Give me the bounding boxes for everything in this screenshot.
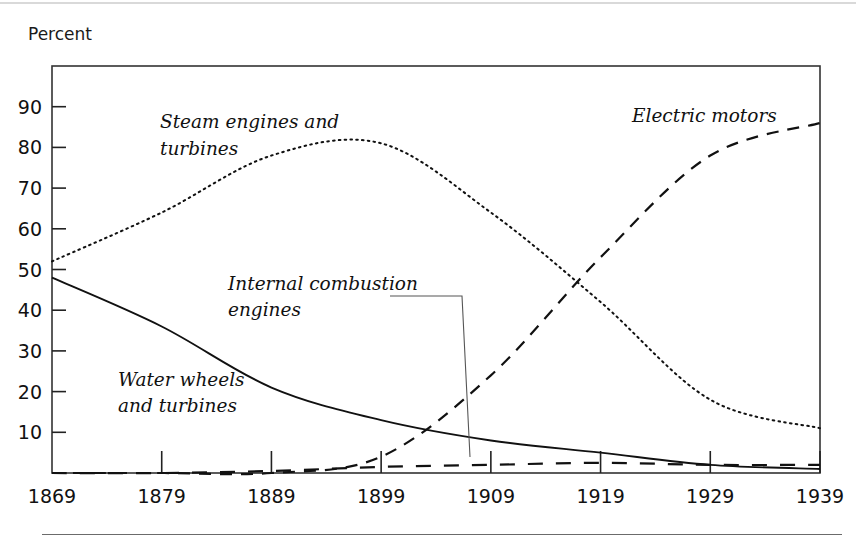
series-label-steam-line-2: turbines (160, 138, 238, 159)
series-line-internal-combustion-engines (52, 463, 820, 473)
series-line-electric-motors (52, 123, 820, 474)
line-chart: 102030405060708090 186918791889189919091… (0, 0, 856, 543)
series-label-electric-motors: Electric motors (631, 105, 777, 126)
x-tick-label-1929: 1929 (686, 485, 734, 507)
y-tick-label-20: 20 (18, 381, 42, 403)
y-tick-label-40: 40 (18, 299, 42, 321)
internal-combustion-callout-leader (390, 296, 470, 457)
x-tick-label-1939: 1939 (796, 485, 844, 507)
y-tick-label-30: 30 (18, 340, 42, 362)
bottom-divider-rule (42, 534, 842, 535)
y-tick-label-50: 50 (18, 259, 42, 281)
x-tick-label-1909: 1909 (467, 485, 515, 507)
x-tick-label-1889: 1889 (247, 485, 295, 507)
series-label-water-line-1: Water wheels (118, 369, 245, 390)
y-tick-label-10: 10 (18, 421, 42, 443)
series-label-internal-combustion-line-1: Internal combustion (227, 273, 418, 294)
y-tick-label-60: 60 (18, 218, 42, 240)
y-axis-tick-group (52, 107, 66, 433)
series-label-steam-line-1: Steam engines and (160, 111, 339, 132)
x-axis-label-group: 18691879188918991909191919291939 (28, 485, 844, 507)
x-tick-label-1919: 1919 (576, 485, 624, 507)
x-tick-label-1869: 1869 (28, 485, 76, 507)
x-tick-label-1879: 1879 (138, 485, 186, 507)
x-tick-label-1899: 1899 (357, 485, 405, 507)
y-tick-label-70: 70 (18, 177, 42, 199)
series-label-water-line-2: and turbines (118, 395, 237, 416)
series-label-internal-combustion-line-2: engines (228, 299, 301, 320)
y-tick-label-80: 80 (18, 136, 42, 158)
series-group (52, 123, 820, 474)
chart-page: Percent 102030405060708090 1869187918891… (0, 0, 856, 543)
y-axis-label-group: 102030405060708090 (18, 96, 42, 444)
y-tick-label-90: 90 (18, 96, 42, 118)
x-axis-tick-group (162, 451, 820, 473)
